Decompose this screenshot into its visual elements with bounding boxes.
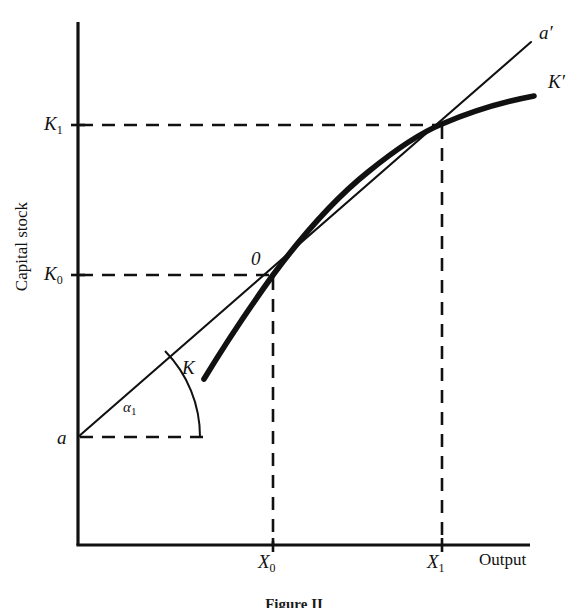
line-end-label-a-prime: a′: [539, 23, 553, 42]
curve-end-label-K-prime: K′: [548, 72, 565, 91]
curve-start-label-K: K: [182, 358, 195, 377]
y-tick-label-K0: K0: [44, 264, 63, 283]
curve-K-Kprime: [204, 96, 534, 379]
angle-label-alpha1-main: α: [123, 399, 131, 415]
y-tick-label-K0-sub: 0: [57, 273, 63, 287]
tangency-point-label: 0: [251, 249, 261, 268]
y-tick-label-K1: K1: [44, 114, 63, 133]
figure-container: Capital stock Output K1 K0 X0 X1 a a′ K …: [0, 0, 588, 608]
y-axis-title: Capital stock: [13, 182, 30, 312]
y-tick-label-K0-main: K: [44, 263, 57, 284]
y-tick-label-K1-sub: 1: [57, 123, 63, 137]
x-tick-label-X1-main: X: [427, 551, 439, 572]
y-tick-label-K1-main: K: [44, 113, 57, 134]
figure-caption: Figure II: [0, 596, 588, 608]
angle-label-alpha1-sub: 1: [131, 405, 137, 417]
angle-label-alpha1: α1: [123, 400, 136, 415]
x-tick-label-X0: X0: [258, 552, 276, 571]
x-tick-label-X0-sub: 0: [270, 561, 276, 575]
x-axis-title: Output: [479, 551, 526, 568]
x-tick-label-X1: X1: [427, 552, 445, 571]
x-tick-label-X1-sub: 1: [439, 561, 445, 575]
capital-stock-output-diagram: [0, 0, 588, 608]
x-tick-label-X0-main: X: [258, 551, 270, 572]
line-start-label-a: a: [57, 428, 67, 447]
